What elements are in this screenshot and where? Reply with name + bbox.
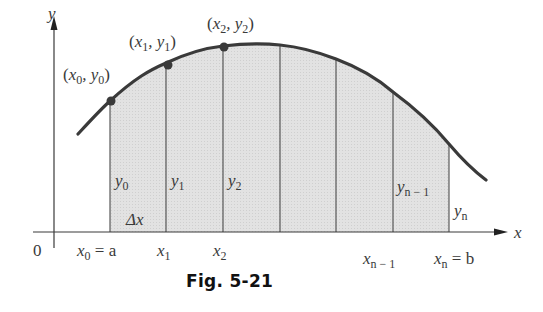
ordinate-label-yn: yn <box>454 202 468 222</box>
ordinate-label-y2: y2 <box>228 172 242 192</box>
trapezoidal-rule-figure: y x 0 (x0, y0) (x1, y1) (x2, y2) y0 y1 y… <box>0 0 543 312</box>
point-label-1: (x1, y1) <box>129 33 176 53</box>
point-x1-y1 <box>164 61 173 70</box>
origin-label: 0 <box>33 242 42 259</box>
delta-x-label: Δx <box>126 211 144 228</box>
abscissa-label-x1: x1 <box>157 242 171 262</box>
ordinate-label-y1: y1 <box>171 172 185 192</box>
figure-caption: Fig. 5-21 <box>186 271 273 291</box>
ordinate-label-y0: y0 <box>115 172 129 192</box>
abscissa-label-xn-1: xn − 1 <box>363 250 395 270</box>
point-label-0: (x0, y0) <box>63 66 110 86</box>
x-axis-label: x <box>514 224 522 241</box>
abscissa-label-xn: xn = b <box>434 250 474 270</box>
point-label-2: (x2, y2) <box>207 15 254 35</box>
abscissa-label-x2: x2 <box>213 242 227 262</box>
y-axis-label: y <box>48 5 56 22</box>
ordinate-label-yn-1: yn − 1 <box>397 178 429 198</box>
abscissa-label-x0: x0 = a <box>77 242 116 262</box>
point-x0-y0 <box>107 97 116 106</box>
point-x2-y2 <box>220 43 229 52</box>
x-axis-arrow-icon <box>494 229 508 236</box>
